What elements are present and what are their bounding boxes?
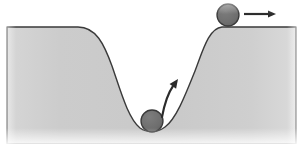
uphill-arrow-head <box>170 79 178 89</box>
horizontal-motion-arrow <box>244 11 276 18</box>
uphill-motion-arrow <box>162 79 178 117</box>
potential-well-illustration <box>0 0 301 144</box>
ball-in-well <box>141 110 163 132</box>
ball-on-plateau <box>217 4 239 26</box>
horizontal-arrow-head <box>268 11 276 18</box>
physics-diagram-figure <box>0 0 301 144</box>
uphill-arrow-shaft <box>162 86 173 117</box>
